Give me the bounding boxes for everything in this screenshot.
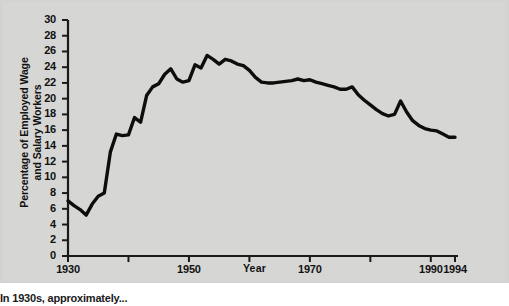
y-tick-label: 8 [34, 186, 56, 198]
axes-group [62, 20, 458, 262]
y-tick-label: 24 [34, 60, 56, 72]
caption-fragment: In 1930s, approximately... [0, 292, 180, 306]
y-tick-label: 18 [34, 107, 56, 119]
y-tick-label: 12 [34, 155, 56, 167]
x-tick-label: 1950 [164, 263, 214, 275]
y-tick-label: 6 [34, 202, 56, 214]
y-tick-label: 4 [34, 218, 56, 230]
y-tick-label: 16 [34, 123, 56, 135]
y-tick-label: 14 [34, 139, 56, 151]
x-tick-label: 1930 [43, 263, 93, 275]
y-tick-label: 22 [34, 76, 56, 88]
y-tick-label: 2 [34, 233, 56, 245]
x-tick-label: 1994 [430, 263, 480, 275]
y-tick-label: 26 [34, 44, 56, 56]
y-tick-label: 28 [34, 29, 56, 41]
y-tick-label: 10 [34, 170, 56, 182]
y-tick-label: 30 [34, 13, 56, 25]
y-tick-label: 0 [34, 249, 56, 261]
chart-figure: Percentage of Employed Wage and Salary W… [0, 0, 509, 306]
line-chart-svg [0, 0, 509, 306]
y-tick-label: 20 [34, 92, 56, 104]
y-axis-label-line1: Percentage of Employed Wage [18, 13, 31, 253]
x-tick-label: 1970 [285, 263, 335, 275]
data-series-line [68, 55, 455, 215]
